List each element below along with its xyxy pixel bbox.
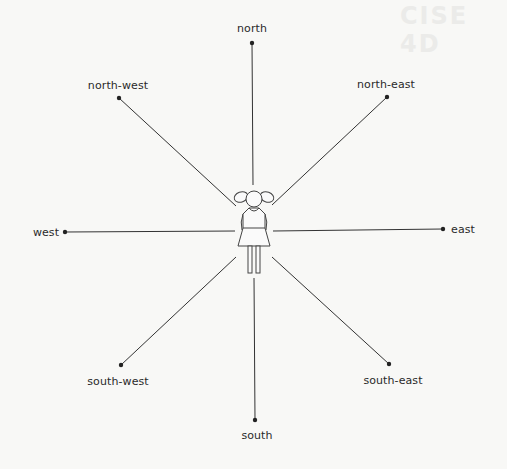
ray-south xyxy=(254,278,255,420)
dot-south-west xyxy=(119,363,123,367)
ray-south-east xyxy=(272,257,389,364)
dot-north-west xyxy=(117,96,121,100)
label-south-west: south-west xyxy=(87,375,149,388)
girl-leg-right xyxy=(256,246,260,273)
dot-north-east xyxy=(385,95,389,99)
label-north: north xyxy=(237,22,267,35)
girl-dress xyxy=(238,208,270,246)
dot-south xyxy=(253,418,257,422)
girl-figure xyxy=(233,190,276,273)
label-west: west xyxy=(33,226,59,239)
label-north-east: north-east xyxy=(357,78,415,91)
dot-north xyxy=(250,41,254,45)
dot-west xyxy=(63,230,67,234)
ray-east xyxy=(273,229,443,231)
dot-south-east xyxy=(387,362,391,366)
ray-north-east xyxy=(272,97,387,205)
girl-head xyxy=(246,191,262,207)
ray-north xyxy=(252,43,253,185)
label-east: east xyxy=(451,223,475,236)
label-south-east: south-east xyxy=(363,374,422,387)
ray-west xyxy=(65,231,235,232)
ray-south-west xyxy=(121,257,236,365)
label-south: south xyxy=(241,429,272,442)
girl-leg-left xyxy=(248,246,252,273)
dot-east xyxy=(441,227,445,231)
ray-north-west xyxy=(119,98,236,206)
label-north-west: north-west xyxy=(88,79,148,92)
compass-diagram xyxy=(0,0,507,469)
